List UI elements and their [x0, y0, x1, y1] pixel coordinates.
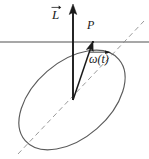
angular-velocity-vector — [73, 41, 93, 100]
angular-velocity-label-text: ω(t) — [89, 53, 109, 65]
dashed-body-axis — [18, 21, 144, 154]
angular-momentum-label-text: L — [52, 8, 59, 21]
point-p-label-text: P — [87, 18, 94, 32]
diagram-canvas — [0, 0, 149, 159]
angular-velocity-label: ω(t) — [89, 53, 109, 65]
physics-diagram-figure: L P ω(t) — [0, 0, 149, 159]
point-p-label: P — [87, 19, 94, 31]
angular-momentum-vector — [69, 4, 77, 100]
angular-momentum-label: L — [52, 8, 59, 21]
point-p-marker — [92, 41, 94, 43]
rigid-body-ellipse — [0, 31, 143, 159]
